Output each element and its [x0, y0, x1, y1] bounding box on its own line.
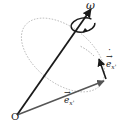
edot-label: ex': [106, 60, 116, 70]
omega-vector: [17, 9, 91, 115]
orbit-ellipse: [8, 3, 118, 106]
orbit-direction-hint: [80, 46, 94, 56]
ex-label: ex': [64, 96, 74, 106]
rotation-diagram: [0, 0, 122, 124]
rotation-arrow-icon: [70, 16, 96, 34]
omega-label: ω: [86, 0, 95, 11]
origin-label: O: [11, 112, 19, 122]
edot-vector: [99, 59, 106, 79]
